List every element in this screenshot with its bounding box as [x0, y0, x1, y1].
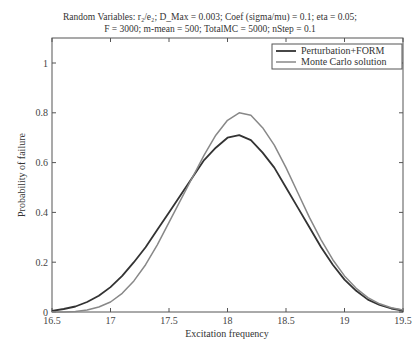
legend-label-form: Perturbation+FORM — [301, 45, 385, 56]
series-perturbation-form — [52, 135, 403, 311]
axes-frame — [52, 38, 403, 312]
x-axis-label: Excitation frequency — [185, 328, 269, 339]
y-tick-label: 0.8 — [36, 107, 49, 118]
y-tick-label: 0.2 — [36, 257, 49, 268]
x-tick-label: 18.5 — [277, 315, 295, 326]
y-tick-label: 0 — [43, 307, 48, 318]
data-series — [52, 113, 403, 312]
x-tick-label: 18 — [223, 315, 233, 326]
x-tick-label: 19 — [340, 315, 350, 326]
legend: Perturbation+FORM Monte Carlo solution — [272, 44, 402, 69]
axis-ticks: 16.51717.51818.51919.500.20.40.60.81 — [36, 38, 412, 326]
x-tick-label: 17 — [106, 315, 116, 326]
x-tick-label: 17.5 — [160, 315, 178, 326]
y-axis-label: Probability of failure — [16, 133, 27, 217]
y-tick-label: 0.6 — [36, 157, 49, 168]
legend-label-mc: Monte Carlo solution — [301, 56, 387, 67]
y-tick-label: 0.4 — [36, 207, 49, 218]
y-tick-label: 1 — [43, 58, 48, 69]
x-tick-label: 19.5 — [394, 315, 412, 326]
line-chart: 16.51717.51818.51919.500.20.40.60.81 Exc… — [0, 0, 420, 354]
series-monte-carlo — [52, 113, 403, 312]
